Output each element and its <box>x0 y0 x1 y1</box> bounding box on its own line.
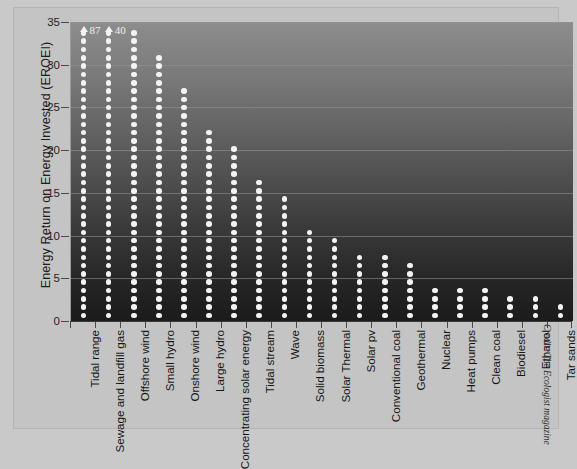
data-dot <box>81 255 87 261</box>
data-dot <box>181 97 187 103</box>
data-dot <box>181 105 187 111</box>
data-dot <box>156 279 162 285</box>
y-axis-ticks: 05101520253035 <box>14 22 70 322</box>
y-tick-mark <box>61 321 69 322</box>
x-tick-mark <box>170 322 171 328</box>
data-dot <box>156 296 162 302</box>
data-column <box>553 304 567 321</box>
data-dot <box>181 271 187 277</box>
data-dot <box>407 296 413 302</box>
data-column <box>353 255 367 322</box>
data-dot <box>181 279 187 285</box>
x-tick-label: Solid biomass <box>313 330 326 402</box>
data-dot <box>156 130 162 136</box>
data-dot <box>131 263 137 269</box>
data-dot <box>181 113 187 119</box>
data-dot <box>106 122 112 128</box>
data-column <box>478 288 492 321</box>
credit-container: Credit: The Ecologist magazine <box>542 324 556 469</box>
data-dot <box>256 255 262 261</box>
data-dot <box>81 63 87 69</box>
data-dot <box>307 313 313 319</box>
data-dot <box>81 97 87 103</box>
data-dot <box>131 171 137 177</box>
y-tick-mark <box>61 150 69 151</box>
data-dot <box>332 263 338 269</box>
data-column <box>177 88 191 321</box>
data-column <box>328 238 342 321</box>
data-dot <box>231 205 237 211</box>
data-dot <box>156 230 162 236</box>
data-dot <box>231 163 237 169</box>
data-dot <box>457 304 463 310</box>
data-dot <box>206 196 212 202</box>
data-dot <box>231 230 237 236</box>
x-tick-label: Small hydro <box>163 330 176 391</box>
data-dot <box>131 55 137 61</box>
data-dot <box>156 246 162 252</box>
chart-frame: Energy Return on Energy Invested (EROEI)… <box>14 8 558 428</box>
data-dot <box>206 130 212 136</box>
data-dot <box>156 255 162 261</box>
data-dot <box>282 304 288 310</box>
data-dot <box>156 271 162 277</box>
data-dot <box>231 296 237 302</box>
data-dot <box>156 180 162 186</box>
x-axis: Tidal rangeSewage and landfill gasOffsho… <box>70 321 572 329</box>
y-tick-mark <box>61 65 69 66</box>
data-dot <box>156 146 162 152</box>
data-dot <box>332 304 338 310</box>
data-dot <box>407 271 413 277</box>
gridline <box>71 107 573 108</box>
data-dot <box>282 271 288 277</box>
data-dot <box>407 288 413 294</box>
data-dot <box>81 313 87 319</box>
data-dot <box>432 304 438 310</box>
data-dot <box>507 296 513 302</box>
data-dot <box>307 271 313 277</box>
data-dot <box>206 279 212 285</box>
data-dot <box>131 130 137 136</box>
data-dot <box>256 246 262 252</box>
x-tick-mark <box>346 322 347 328</box>
data-dot <box>181 196 187 202</box>
data-dot <box>181 230 187 236</box>
data-dot <box>256 288 262 294</box>
data-column <box>152 55 166 321</box>
data-dot <box>231 288 237 294</box>
data-dot <box>457 296 463 302</box>
data-dot <box>256 279 262 285</box>
data-dot <box>206 263 212 269</box>
data-dot <box>81 288 87 294</box>
data-dot <box>106 105 112 111</box>
data-dot <box>231 196 237 202</box>
x-tick-mark <box>571 322 572 328</box>
data-dot <box>131 38 137 44</box>
data-dot <box>206 213 212 219</box>
data-dot <box>382 296 388 302</box>
data-dot <box>156 288 162 294</box>
data-column <box>252 180 266 321</box>
plot-area: 8740 <box>70 22 573 321</box>
x-tick-label: Solar Thermal <box>339 330 352 403</box>
data-dot <box>282 246 288 252</box>
data-dot <box>357 296 363 302</box>
data-dot <box>106 63 112 69</box>
data-dot <box>106 130 112 136</box>
data-dot <box>231 146 237 152</box>
data-dot <box>106 246 112 252</box>
data-dot <box>206 246 212 252</box>
data-dot <box>357 279 363 285</box>
x-tick-label: Onshore wind <box>188 330 201 402</box>
data-column <box>403 263 417 321</box>
data-dot <box>81 213 87 219</box>
data-dot <box>382 255 388 261</box>
x-tick-mark <box>522 322 523 328</box>
data-dot <box>156 263 162 269</box>
data-column <box>102 30 116 321</box>
data-dot <box>307 255 313 261</box>
data-dot <box>181 130 187 136</box>
data-dot <box>206 180 212 186</box>
data-dot <box>81 180 87 186</box>
x-tick-mark <box>296 322 297 328</box>
